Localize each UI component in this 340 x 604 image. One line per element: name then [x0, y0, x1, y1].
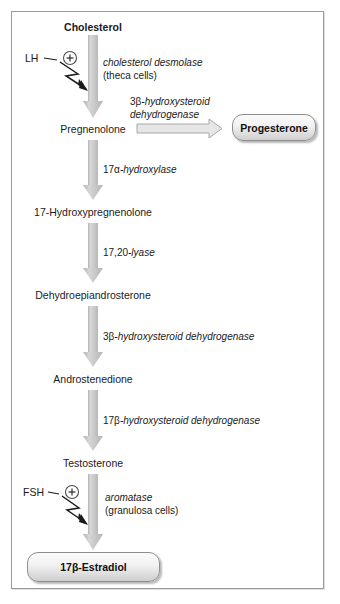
product-label-estradiol: 17β-Estradiol: [60, 561, 127, 573]
enzyme-3b-hydroxysteroid-dehydrogenase-androstenedione: 3β-hydroxysteroid dehydrogenase: [103, 331, 254, 344]
stimulator-label-fsh: FSH: [23, 486, 44, 498]
product-box-progesterone[interactable]: Progesterone: [232, 114, 316, 141]
enzyme-1720-lyase-line1: -lyase: [128, 247, 155, 258]
enzyme-hsd3b2-prefix: 3β: [103, 331, 114, 342]
enzyme-cholesterol-desmolase-line2: (theca cells): [103, 70, 157, 81]
enzyme-hsd3b-line2: dehydrogenase: [130, 109, 199, 120]
metabolite-testosterone: Testosterone: [63, 457, 123, 469]
enzyme-hsd17b-line1: -hydroxysteroid dehydrogenase: [120, 415, 260, 426]
metabolite-cholesterol: Cholesterol: [64, 21, 122, 33]
enzyme-hsd3b2-line1: -hydroxysteroid dehydrogenase: [114, 331, 254, 342]
arrow-cholesterol-to-pregnenolone: [83, 35, 103, 118]
arrow-pregnenolone-to-progesterone: [137, 119, 222, 138]
arrow-testosterone-to-estradiol: [83, 474, 103, 550]
enzyme-cholesterol-desmolase: cholesterol desmolase (theca cells): [103, 57, 203, 82]
metabolite-pregnenolone: Pregnenolone: [60, 123, 125, 135]
fsh-plus-icon: [66, 486, 79, 499]
arrow-pregnenolone-to-hydroxypregnenolone: [83, 140, 103, 200]
product-label-progesterone: Progesterone: [240, 122, 308, 134]
diagram-canvas: Cholesterol Pregnenolone 17-Hydroxypregn…: [0, 0, 340, 604]
enzyme-hsd17b-prefix: 17β: [103, 415, 120, 426]
enzyme-17b-hydroxysteroid-dehydrogenase: 17β-hydroxysteroid dehydrogenase: [103, 415, 260, 428]
enzyme-17a-hydroxylase-line1: -hydroxylase: [120, 164, 177, 175]
enzyme-17alpha-hydroxylase: 17α-hydroxylase: [103, 164, 177, 177]
product-box-estradiol[interactable]: 17β-Estradiol: [27, 552, 160, 582]
enzyme-hsd3b-line1: -hydroxysteroid: [141, 96, 209, 107]
enzyme-aromatase-line1: aromatase: [105, 492, 152, 503]
enzyme-cholesterol-desmolase-line1: cholesterol desmolase: [103, 57, 203, 68]
stimulator-label-lh: LH: [25, 52, 38, 64]
metabolite-hydroxypregnenolone: 17-Hydroxypregnenolone: [34, 206, 152, 218]
arrow-hydroxypregnenolone-to-dhea: [83, 223, 103, 283]
metabolite-androstenedione: Androstenedione: [53, 373, 132, 385]
arrow-androstenedione-to-testosterone: [83, 390, 103, 451]
metabolite-dehydroepiandrosterone: Dehydroepiandrosterone: [35, 289, 151, 301]
enzyme-17a-hydroxylase-prefix: 17α: [103, 164, 120, 175]
enzyme-1720-lyase-prefix: 17,20: [103, 247, 128, 258]
enzyme-hsd3b-prefix: 3β: [130, 96, 141, 107]
enzyme-1720-lyase: 17,20-lyase: [103, 247, 155, 260]
arrow-dhea-to-androstenedione: [83, 306, 103, 367]
enzyme-3b-hydroxysteroid-dehydrogenase-progesterone: 3β-hydroxysteroid dehydrogenase: [130, 96, 210, 121]
enzyme-aromatase-line2: (granulosa cells): [105, 505, 178, 516]
enzyme-aromatase: aromatase (granulosa cells): [105, 492, 178, 517]
lh-plus-icon: [64, 52, 77, 65]
